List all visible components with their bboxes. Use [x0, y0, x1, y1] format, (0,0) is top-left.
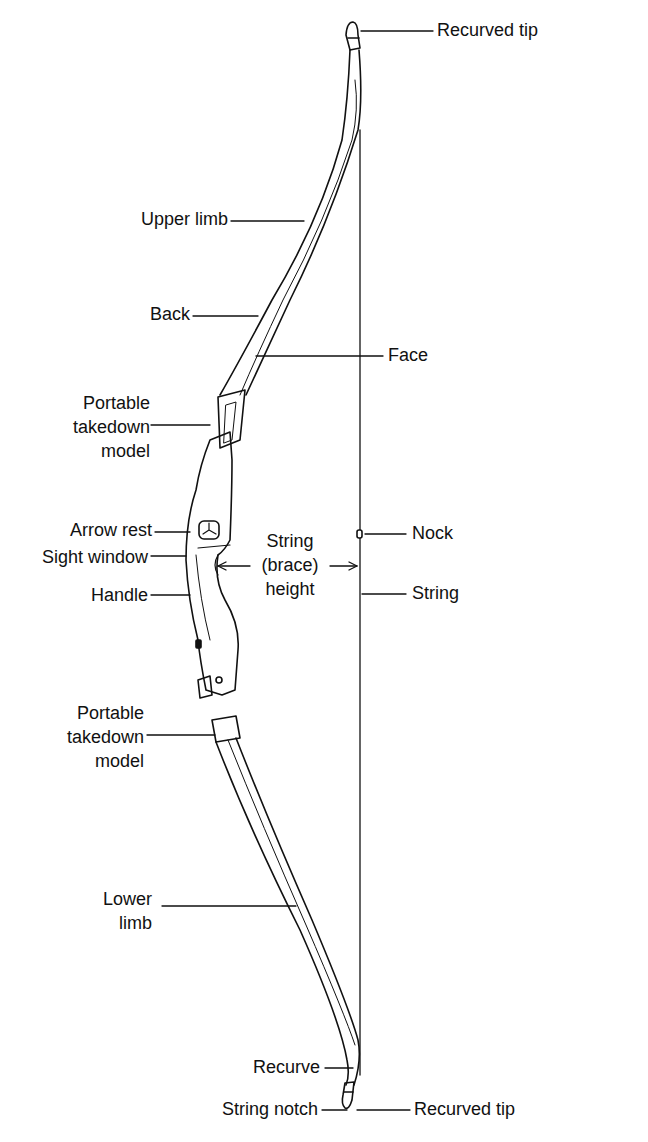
upper-limb-back: [220, 50, 350, 395]
label-string: String: [412, 581, 459, 605]
lower-tip: [342, 1082, 354, 1108]
upper-tip: [346, 22, 360, 50]
label-sight-window: Sight window: [0, 545, 148, 569]
label-brace-height: String (brace) height: [250, 529, 330, 601]
label-recurved-tip-top: Recurved tip: [437, 18, 538, 42]
lower-limb-back: [216, 742, 348, 1085]
label-arrow-rest: Arrow rest: [20, 518, 152, 542]
label-string-notch: String notch: [180, 1097, 318, 1121]
label-lower-limb: Lower limb: [60, 887, 152, 935]
nock-mark: [357, 530, 362, 538]
upper-takedown-sleeve: [218, 390, 245, 448]
label-takedown-lower: Portable takedown model: [30, 701, 144, 773]
label-handle: Handle: [40, 583, 148, 607]
bow-diagram: Recurved tip Upper limb Back Face Portab…: [0, 0, 648, 1142]
label-takedown-upper: Portable takedown model: [40, 391, 150, 463]
riser: [186, 432, 238, 695]
label-upper-limb: Upper limb: [100, 207, 228, 231]
label-face: Face: [388, 343, 428, 367]
label-recurved-tip-bottom: Recurved tip: [414, 1097, 515, 1121]
label-back: Back: [100, 302, 190, 326]
label-recurve: Recurve: [200, 1055, 320, 1079]
label-nock: Nock: [412, 521, 453, 545]
